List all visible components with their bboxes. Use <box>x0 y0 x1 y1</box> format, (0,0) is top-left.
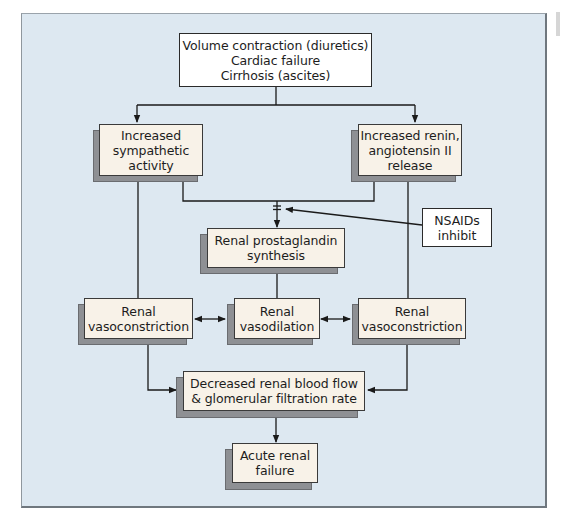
node-acute-failure-label: Acute renal failure <box>240 448 310 478</box>
node-renin-label: Increased renin, angiotensin II release <box>360 128 459 173</box>
node-prostaglandin-label: Renal prostaglandin synthesis <box>215 233 338 263</box>
node-nsaids-label: NSAIDs inhibit <box>434 213 479 243</box>
node-causes-label: Volume contraction (diuretics) Cardiac f… <box>183 38 369 83</box>
node-decreased-flow-label: Decreased renal blood flow & glomerular … <box>190 376 358 406</box>
node-vasoconstriction-left-label: Renal vasoconstriction <box>88 304 189 334</box>
node-acute-failure: Acute renal failure <box>232 443 318 483</box>
node-renin: Increased renin, angiotensin II release <box>358 124 462 176</box>
node-decreased-flow: Decreased renal blood flow & glomerular … <box>183 371 365 411</box>
node-vasoconstriction-right-label: Renal vasoconstriction <box>362 304 463 334</box>
page-edge-mark <box>556 12 560 36</box>
node-causes: Volume contraction (diuretics) Cardiac f… <box>179 33 372 87</box>
node-sympathetic-label: Increased sympathetic activity <box>113 128 189 173</box>
node-vasodilation: Renal vasodilation <box>234 298 320 339</box>
node-nsaids: NSAIDs inhibit <box>422 208 492 247</box>
node-vasoconstriction-right: Renal vasoconstriction <box>358 298 466 339</box>
node-vasoconstriction-left: Renal vasoconstriction <box>84 298 193 339</box>
node-prostaglandin: Renal prostaglandin synthesis <box>207 228 345 268</box>
node-vasodilation-label: Renal vasodilation <box>240 304 315 334</box>
node-sympathetic: Increased sympathetic activity <box>99 124 203 176</box>
